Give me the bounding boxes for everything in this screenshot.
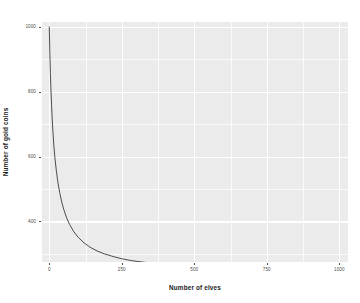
y-tick-label: 400 xyxy=(14,219,36,224)
y-tick-mark xyxy=(39,157,41,158)
y-tick-label: 600 xyxy=(14,154,36,159)
y-tick-label: 800 xyxy=(14,89,36,94)
x-tick-mark xyxy=(49,263,50,265)
chart-figure: 4006008001000 02505007501000 Number of e… xyxy=(0,0,360,303)
x-tick-mark xyxy=(339,263,340,265)
x-tick-label: 250 xyxy=(107,267,137,272)
y-tick-label: 1000 xyxy=(14,24,36,29)
y-tick-mark xyxy=(39,27,41,28)
series-line-gold-coins-per-elf xyxy=(42,22,348,262)
plot-panel xyxy=(42,22,348,262)
x-tick-label: 750 xyxy=(252,267,282,272)
x-tick-mark xyxy=(122,263,123,265)
x-tick-label: 1000 xyxy=(324,267,354,272)
x-tick-mark xyxy=(267,263,268,265)
x-tick-label: 500 xyxy=(179,267,209,272)
y-tick-mark xyxy=(39,92,41,93)
x-tick-label: 0 xyxy=(34,267,64,272)
x-tick-mark xyxy=(194,263,195,265)
x-axis-title: Number of elves xyxy=(42,284,348,291)
y-axis-title: Number of gold coins xyxy=(2,22,12,262)
y-tick-mark xyxy=(39,221,41,222)
